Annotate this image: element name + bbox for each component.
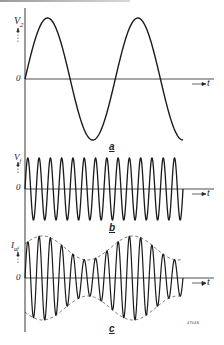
waveform-plot <box>0 0 224 345</box>
panel-label-a: a <box>109 142 115 152</box>
t-arrow-icon <box>192 83 206 286</box>
panel-label-b: b <box>109 223 115 233</box>
panel-label-c: c <box>109 324 115 334</box>
y-label-b: Vf <box>14 153 21 164</box>
y-label-a: V2 <box>14 16 24 29</box>
t-label-c: t <box>207 277 210 287</box>
zero-label-c: 0 <box>16 273 21 282</box>
y-label-c: Iaf <box>11 241 19 252</box>
t-label-b: t <box>207 188 210 198</box>
t-label-a: t <box>207 78 210 88</box>
zero-label-b: 0 <box>16 183 21 192</box>
reference-number: 47046 <box>187 320 199 325</box>
zero-label-a: 0 <box>16 74 21 83</box>
modulation-figure: V2 Vf Iaf 0 0 0 t t t a b c 47046 <box>0 0 224 345</box>
y-arrow-icon <box>17 28 19 263</box>
